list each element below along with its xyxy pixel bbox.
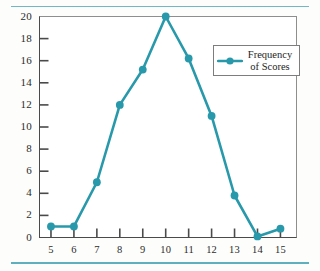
y-axis-tick-label: 4 [6, 187, 32, 198]
data-point-marker [208, 112, 216, 120]
y-axis-tick-label: 20 [6, 11, 32, 22]
data-point-marker [139, 66, 147, 74]
data-point-marker [47, 223, 55, 231]
x-axis-tick-label: 6 [65, 244, 83, 255]
x-axis-tick-label: 5 [42, 244, 60, 255]
y-axis-tick-label: 10 [6, 121, 32, 132]
x-axis-tick-label: 12 [203, 244, 221, 255]
x-axis-tick-label: 11 [180, 244, 198, 255]
data-point-marker [254, 233, 262, 241]
y-axis-ticks [40, 39, 49, 216]
x-axis-tick-label: 7 [88, 244, 106, 255]
legend-label-line-1: Frequency [243, 49, 297, 61]
legend-label-line-2: of Scores [243, 61, 297, 73]
legend-label: Frequency of Scores [243, 49, 299, 73]
x-axis-tick-label: 15 [271, 244, 289, 255]
data-point-marker [70, 223, 78, 231]
data-point-marker [277, 225, 285, 233]
data-point-marker [93, 178, 101, 186]
x-axis-ticks [51, 229, 280, 238]
data-point-marker [162, 13, 170, 21]
legend-line-marker-icon [217, 54, 243, 68]
data-point-marker [116, 101, 124, 109]
y-axis-tick-label: 12 [6, 99, 32, 110]
x-axis-tick-label: 8 [111, 244, 129, 255]
y-axis-tick-label: 8 [6, 143, 32, 154]
y-axis-tick-label: 14 [6, 77, 32, 88]
x-axis-tick-label: 13 [226, 244, 244, 255]
x-axis-tick-label: 10 [157, 244, 175, 255]
y-axis-tick-label: 0 [6, 232, 32, 243]
data-point-marker [231, 192, 239, 200]
chart-canvas [0, 0, 320, 271]
y-axis-tick-label: 16 [6, 55, 32, 66]
x-axis-tick-label: 9 [134, 244, 152, 255]
y-axis-tick-label: 6 [6, 165, 32, 176]
chart-legend: Frequency of Scores [213, 45, 300, 76]
x-axis-tick-label: 14 [248, 244, 266, 255]
data-point-marker [185, 55, 193, 63]
chart-figure: 02468101214161820 56789101112131415 Freq… [0, 0, 320, 271]
y-axis-tick-label: 18 [6, 33, 32, 44]
y-axis-tick-label: 2 [6, 209, 32, 220]
